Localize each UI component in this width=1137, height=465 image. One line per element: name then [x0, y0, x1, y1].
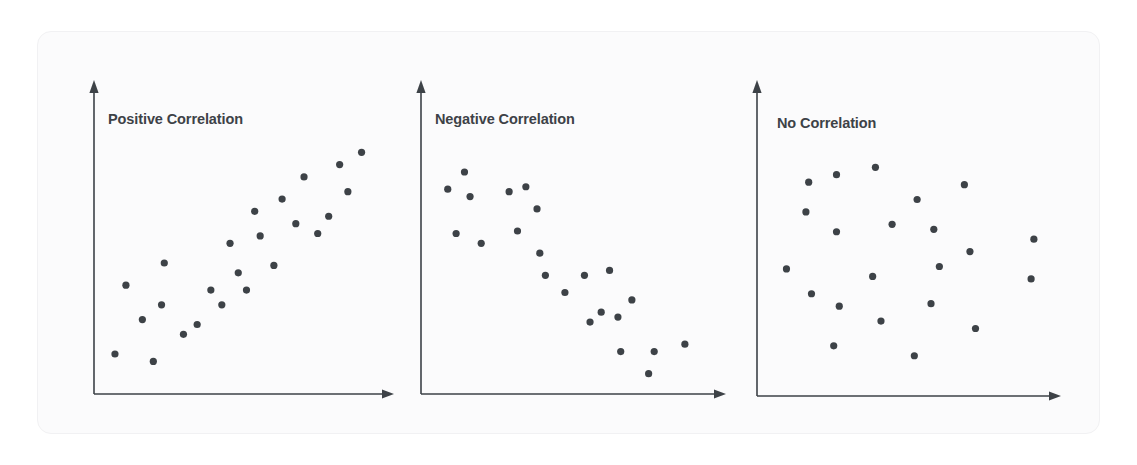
data-point — [936, 263, 943, 270]
data-point — [927, 300, 934, 307]
scatter-plot-no-correlation — [0, 0, 1137, 465]
x-axis-arrow-icon — [1049, 391, 1061, 400]
data-point — [833, 171, 840, 178]
data-point — [872, 164, 879, 171]
figure-root: Positive Correlation Negative Correlatio… — [0, 0, 1137, 465]
data-point — [805, 179, 812, 186]
data-point — [1028, 275, 1035, 282]
data-point — [783, 265, 790, 272]
data-point — [930, 226, 937, 233]
data-point — [802, 208, 809, 215]
y-axis-arrow-icon — [752, 80, 761, 93]
axes-no-correlation — [752, 80, 1061, 401]
data-point — [830, 342, 837, 349]
data-point — [869, 273, 876, 280]
data-point — [1030, 236, 1037, 243]
data-point-group — [783, 164, 1038, 360]
data-point — [889, 221, 896, 228]
data-point — [914, 196, 921, 203]
panels-container: Positive Correlation Negative Correlatio… — [0, 0, 1137, 465]
data-point — [836, 303, 843, 310]
data-point — [911, 352, 918, 359]
data-point — [972, 325, 979, 332]
data-point — [877, 317, 884, 324]
data-point — [966, 248, 973, 255]
data-point — [961, 181, 968, 188]
data-point — [808, 290, 815, 297]
data-point — [833, 228, 840, 235]
